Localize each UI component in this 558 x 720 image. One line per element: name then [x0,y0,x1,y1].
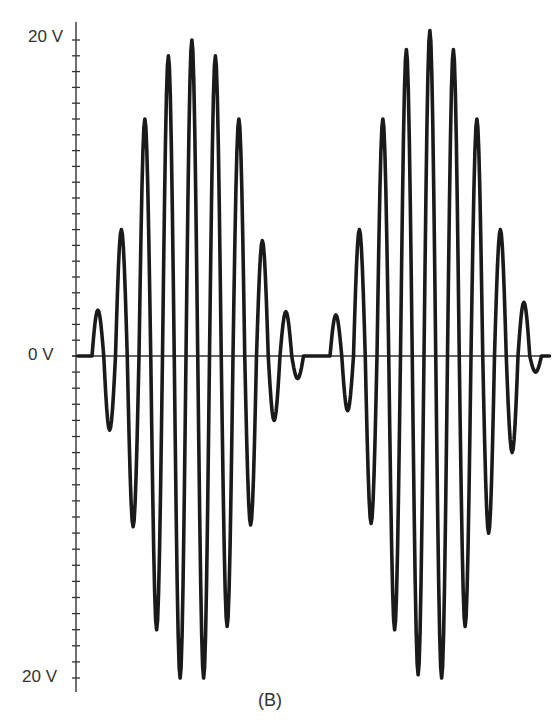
y-label-plus-20v: 20 V [28,27,63,47]
waveform-chart [0,0,558,720]
figure-caption: (B) [258,690,282,711]
y-label-minus-20v: 20 V [22,667,57,687]
am-waveform [78,31,550,678]
y-label-zero: 0 V [28,345,54,365]
